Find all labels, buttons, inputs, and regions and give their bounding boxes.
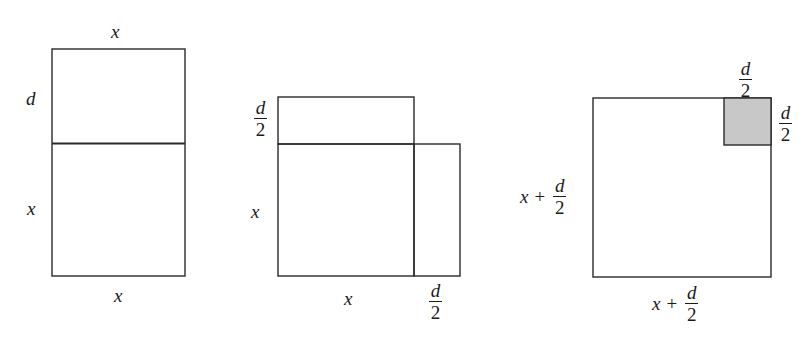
figure-2-left-upper-fraction: d 2 [254,98,267,139]
figure-2-bottom-left-label: x [344,289,352,308]
figure-2-left-lower-label: x [251,202,259,221]
figure-2-right-strip [414,144,460,276]
fraction-denominator: 2 [741,80,751,100]
figure-1-top-label: x [111,22,119,41]
figure-1-outer-rect [52,49,185,276]
fraction-denominator: 2 [781,124,791,144]
fraction-denominator: 2 [431,302,441,322]
figure-1-bottom-label: x [114,286,122,305]
sum-fraction: d 2 [685,283,698,324]
fraction-numerator: d [780,103,792,123]
figure-3-bottom-label: x + d 2 [652,283,698,324]
figure-3-top-corner-fraction: d 2 [739,59,752,100]
fraction-numerator: d [740,59,752,79]
figure-2-main-square [278,144,414,276]
figure-1-left-lower-label: x [27,199,35,218]
sum-variable: x [520,186,528,208]
fraction-numerator: d [430,281,442,301]
figure-1-left-upper-label: d [26,89,36,108]
fraction-numerator: d [255,98,267,118]
figure-2-top-strip [278,97,414,144]
figure-3-right-corner-fraction: d 2 [779,103,792,144]
sum-operator: + [534,186,545,208]
figure-1 [52,49,185,276]
figure-3-shaded-square [724,98,771,145]
sum-variable: x [652,293,660,315]
figure-2 [278,97,460,276]
fraction-numerator: d [686,283,698,303]
fraction-numerator: d [554,176,566,196]
fraction-denominator: 2 [687,304,697,324]
sum-operator: + [666,293,677,315]
figure-2-bottom-right-fraction: d 2 [429,281,442,322]
fraction-denominator: 2 [256,119,266,139]
sum-fraction: d 2 [553,176,566,217]
fraction-denominator: 2 [555,197,565,217]
figure-3 [593,98,771,277]
figure-3-left-label: x + d 2 [520,176,566,217]
